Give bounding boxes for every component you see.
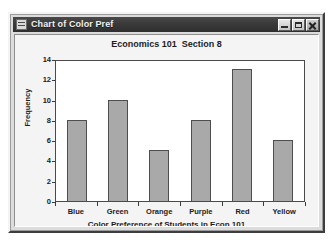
x-axis-tick-label: Orange [138,207,180,216]
bar[interactable] [232,69,252,201]
window-titlebar[interactable]: Chart of Color Pref [13,17,320,32]
x-axis-tick-mark [222,202,223,206]
x-axis-tick-labels: BlueGreenOrangePurpleRedYellow [55,207,305,216]
bar-slot [139,61,180,201]
y-axis-tick-label: 4 [47,156,51,165]
x-axis-tick-mark [180,202,181,206]
y-axis-tick-label: 2 [47,177,51,186]
close-button[interactable] [306,19,319,31]
x-axis-tick-label: Yellow [263,207,305,216]
x-axis-tick-label: Red [222,207,264,216]
window-frame: Chart of Color Pref Economics 101 Sectio… [10,14,323,231]
x-axis-tick-mark [55,202,56,206]
bar[interactable] [273,140,293,201]
bar[interactable] [149,150,169,201]
x-axis-tick-mark [263,202,264,206]
maximize-button[interactable] [292,19,305,31]
window-client-area: Economics 101 Section 8 Frequency 024681… [14,34,319,227]
bar-series [56,61,304,201]
y-axis-tick-label: 10 [43,96,51,105]
bar-slot [97,61,138,201]
y-axis-tick-label: 12 [43,75,51,84]
x-axis-tick-label: Blue [55,207,97,216]
x-axis-tick-label: Purple [180,207,222,216]
plot-area [55,60,305,202]
x-axis-tick-mark [97,202,98,206]
y-axis-tick-label: 0 [47,197,51,206]
y-axis: 02468101214 [33,60,55,202]
x-axis-tick-mark [305,202,306,206]
bar-slot [263,61,304,201]
y-axis-title: Frequency [23,89,32,127]
bar-chart: Economics 101 Section 8 Frequency 024681… [15,35,318,226]
minimize-button[interactable] [278,19,291,31]
bar-slot [180,61,221,201]
x-axis-tick-label: Green [97,207,139,216]
y-axis-tick-label: 8 [47,116,51,125]
y-axis-tick-label: 6 [47,136,51,145]
application-window: Chart of Color Pref Economics 101 Sectio… [8,12,325,233]
chart-title: Economics 101 Section 8 [15,39,318,49]
bar-slot [56,61,97,201]
bar[interactable] [191,120,211,201]
bar-slot [221,61,262,201]
y-axis-tick-label: 14 [43,55,51,64]
x-axis-tick-mark [138,202,139,206]
bar[interactable] [67,120,87,201]
window-menu-icon[interactable] [16,19,27,30]
x-axis-title: Color Preference of Students in Econ 101 [15,220,318,227]
bar[interactable] [108,100,128,201]
x-axis-ticks [55,202,305,206]
window-title: Chart of Color Pref [31,17,277,32]
